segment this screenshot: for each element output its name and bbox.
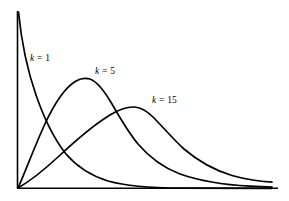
curve-label-k1-value: 1 (45, 53, 50, 63)
curve-k5 (18, 78, 272, 188)
curve-label-k1-equals: = (34, 53, 45, 63)
curve-label-k15-equals: = (156, 95, 167, 105)
curve-label-k5-equals: = (99, 66, 110, 76)
chi-squared-density-figure: k = 1 k = 5 k = 15 (0, 0, 289, 201)
curve-k15 (18, 107, 272, 188)
curve-label-k15-value: 15 (167, 95, 177, 105)
curve-label-k5: k = 5 (95, 67, 115, 77)
curve-k1 (19, 12, 273, 188)
chart-canvas (0, 0, 289, 201)
curve-label-k15: k = 15 (152, 96, 177, 106)
curve-label-k1: k = 1 (30, 54, 50, 64)
curve-label-k5-value: 5 (110, 66, 115, 76)
